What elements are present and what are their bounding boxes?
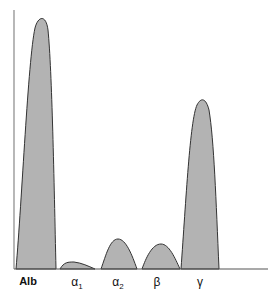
label-alpha2: α2	[112, 275, 123, 291]
label-albumin: Alb	[19, 275, 37, 287]
electrophoresis-plot	[0, 0, 275, 299]
peak-albumin	[16, 19, 56, 270]
label-beta: β	[154, 275, 161, 289]
peak-gamma	[181, 100, 219, 269]
peak-alpha2	[101, 239, 137, 269]
label-alpha1: α1	[71, 275, 82, 291]
peak-beta	[142, 244, 180, 269]
label-gamma: γ	[197, 275, 203, 289]
peak-alpha1	[60, 262, 95, 269]
